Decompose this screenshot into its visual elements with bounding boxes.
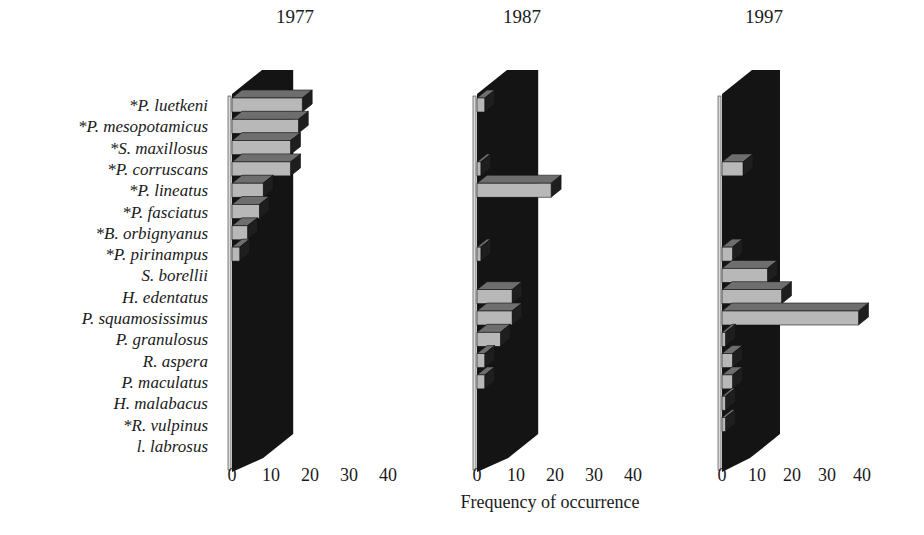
x-tick-label: 0	[718, 465, 727, 486]
bar-top-face	[232, 133, 301, 141]
bar-front-face	[477, 183, 551, 197]
bar-front-face	[477, 354, 485, 368]
bar-front-face	[722, 162, 743, 176]
bar-front-face	[232, 205, 259, 219]
x-axis-label: Frequency of occurrence	[461, 492, 640, 513]
back-wall	[477, 70, 538, 472]
bar-top-face	[722, 303, 869, 311]
bar-front-face	[232, 141, 291, 155]
bar-front-face	[722, 247, 733, 261]
bar-front-face	[722, 332, 726, 346]
bar-front-face	[722, 418, 726, 432]
x-tick-label: 10	[507, 465, 525, 486]
x-tick-label: 10	[748, 465, 766, 486]
x-tick-label: 20	[783, 465, 801, 486]
bar-top-face	[232, 111, 308, 119]
x-tick-label: 30	[818, 465, 836, 486]
x-tick-label: 40	[853, 465, 871, 486]
x-tick-label: 40	[379, 465, 397, 486]
x-tick-label: 30	[340, 465, 358, 486]
bar-top-face	[232, 154, 301, 162]
bar-front-face	[722, 396, 726, 410]
panel-1997	[718, 70, 869, 472]
bar-front-face	[477, 290, 512, 304]
bar-front-face	[477, 247, 481, 261]
x-tick-label: 0	[228, 465, 237, 486]
bar-top-face	[477, 175, 561, 183]
axis-line	[473, 96, 476, 470]
x-tick-label: 30	[585, 465, 603, 486]
bar-front-face	[477, 375, 485, 389]
bar-front-face	[232, 247, 240, 261]
x-tick-label: 10	[262, 465, 280, 486]
bar-front-face	[477, 162, 481, 176]
panel-1977	[228, 70, 312, 472]
x-tick-label: 20	[301, 465, 319, 486]
x-tick-label: 0	[473, 465, 482, 486]
bar-chart-panels	[0, 0, 924, 535]
bar-front-face	[722, 311, 859, 325]
bar-front-face	[232, 226, 248, 240]
axis-line	[718, 96, 721, 470]
bar-top-face	[232, 90, 312, 98]
bar-front-face	[232, 162, 291, 176]
bar-front-face	[232, 183, 263, 197]
bar-top-face	[722, 282, 792, 290]
bar-front-face	[722, 290, 782, 304]
bar-front-face	[722, 268, 768, 282]
bar-front-face	[232, 119, 298, 133]
x-tick-label: 40	[624, 465, 642, 486]
x-tick-label: 20	[546, 465, 564, 486]
figure: 1977 1987 1997 *P. luetkeni*P. mesopotam…	[0, 0, 924, 535]
axis-line	[228, 96, 231, 470]
bar-front-face	[477, 311, 512, 325]
bar-front-face	[477, 332, 500, 346]
panel-1987	[473, 70, 561, 472]
bar-front-face	[477, 98, 485, 112]
bar-front-face	[722, 375, 733, 389]
bar-front-face	[232, 98, 302, 112]
bar-front-face	[722, 354, 733, 368]
